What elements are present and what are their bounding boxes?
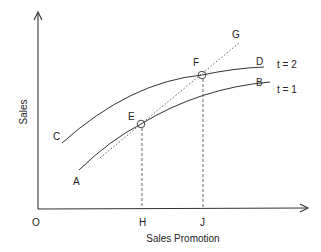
y-axis-title: Sales [18, 99, 29, 124]
x-axis [38, 208, 307, 209]
label-d: D [256, 56, 263, 67]
curve-t1-ab [79, 82, 270, 170]
label-g: G [232, 29, 240, 40]
label-f: F [193, 57, 199, 68]
label-b: B [256, 77, 263, 88]
curve-t2-cd [62, 67, 264, 143]
label-e: E [128, 111, 135, 122]
label-a: A [73, 176, 80, 187]
x-tick-j: J [200, 217, 205, 228]
label-t1: t = 1 [277, 84, 297, 95]
x-tick-h: H [139, 217, 146, 228]
sales-promotion-diagram: A B C D E F G t = 2 t = 1 O H J Sales Pr… [0, 0, 321, 252]
label-c: C [53, 131, 60, 142]
origin-label: O [32, 217, 40, 228]
label-t2: t = 2 [277, 59, 297, 70]
x-axis-title: Sales Promotion [146, 233, 219, 244]
